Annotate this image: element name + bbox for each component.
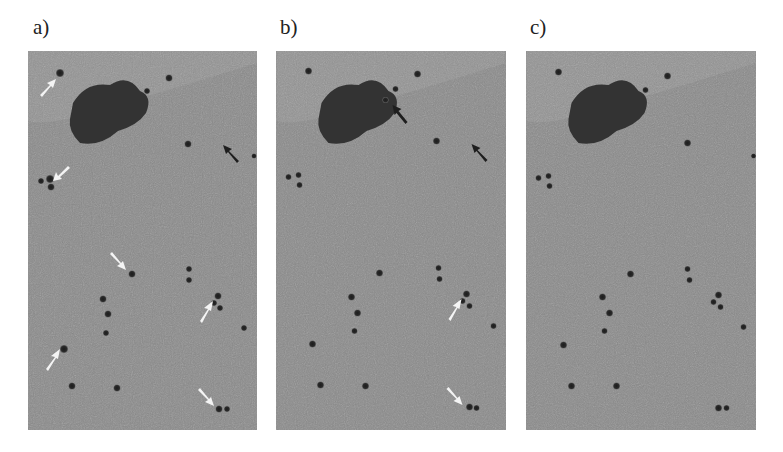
panel-b-image xyxy=(276,51,506,430)
micrograph-b xyxy=(276,51,506,430)
panel-c-label: c) xyxy=(530,17,546,38)
panel-a-image xyxy=(28,51,257,430)
panel-a-label: a) xyxy=(33,17,49,38)
micrograph-c xyxy=(526,51,756,430)
micrograph-a xyxy=(28,51,257,430)
figure: a) xyxy=(0,0,783,452)
panel-c-image xyxy=(526,51,756,430)
panel-b-label: b) xyxy=(280,17,298,38)
